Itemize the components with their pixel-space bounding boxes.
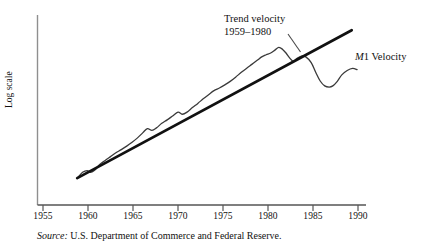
trend-velocity-annotation: Trend velocity 1959–1980 xyxy=(224,13,285,38)
m1-velocity-annotation-rest: 1 Velocity xyxy=(364,51,407,62)
chart-figure: Log scale 1955 1960 1965 1970 1975 1980 … xyxy=(0,0,425,251)
m1-velocity-annotation-italic: M xyxy=(355,51,364,62)
x-tick-label-1955: 1955 xyxy=(33,211,52,221)
trend-line xyxy=(77,30,352,178)
x-tick-label-1980: 1980 xyxy=(258,211,277,221)
series-line-m1-velocity xyxy=(78,47,357,177)
x-tick-label-1970: 1970 xyxy=(168,211,187,221)
x-tick-label-1975: 1975 xyxy=(213,211,232,221)
x-tick-label-1990: 1990 xyxy=(348,211,367,221)
x-tick-label-1965: 1965 xyxy=(123,211,142,221)
x-tick-label-1985: 1985 xyxy=(303,211,322,221)
source-text: U.S. Department of Commerce and Federal … xyxy=(68,230,282,241)
x-tick-label-1960: 1960 xyxy=(78,211,97,221)
trend-velocity-annotation-line1: Trend velocity xyxy=(224,13,285,26)
trend-label-leader-line xyxy=(288,34,301,52)
y-axis-title: Log scale xyxy=(4,28,14,108)
source-note: Source: U.S. Department of Commerce and … xyxy=(37,230,282,241)
source-label: Source: xyxy=(37,230,68,241)
m1-velocity-annotation: M1 Velocity xyxy=(355,51,406,64)
trend-velocity-annotation-line2: 1959–1980 xyxy=(224,26,285,39)
